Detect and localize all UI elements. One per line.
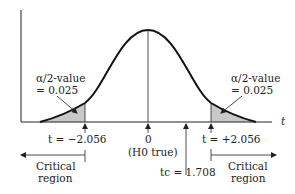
right-pointer-arrow: [221, 96, 242, 113]
left-pointer-arrow: [57, 96, 77, 113]
test-statistic-label: tc = 1.708: [160, 166, 216, 178]
center-note: (H0 true): [128, 146, 178, 158]
right-alpha-value: = 0.025: [231, 84, 273, 96]
t-distribution-diagram: t α/2-value = 0.025 α/2-value = 0.025 t …: [0, 0, 295, 194]
left-alpha-value: = 0.025: [36, 84, 78, 96]
left-region-label-2: region: [38, 172, 73, 184]
right-alpha-label: α/2-value: [231, 72, 280, 84]
right-region-label-2: region: [231, 172, 266, 184]
left-critical-label: t = −2.056: [48, 133, 107, 145]
left-alpha-label: α/2-value: [36, 72, 85, 84]
right-region-label-1: Critical: [228, 160, 268, 172]
right-critical-label: t = +2.056: [202, 133, 261, 145]
center-value: 0: [145, 133, 152, 145]
t-axis-label: t: [281, 115, 286, 127]
left-region-label-1: Critical: [36, 160, 76, 172]
